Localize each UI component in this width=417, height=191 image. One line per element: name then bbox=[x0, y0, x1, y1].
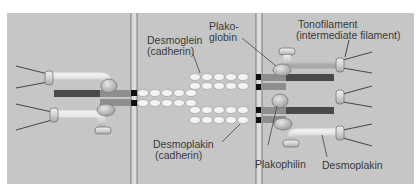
left-plakoglobin bbox=[101, 79, 117, 93]
label-desmoglein-sub: (cadherin) bbox=[147, 45, 194, 57]
right-plakoglobin-mid bbox=[272, 94, 288, 108]
label-desmoplakin-cadherin-sub: (cadherin) bbox=[155, 149, 202, 161]
desmosome-diagram: Desmoglein (cadherin) Plako- globin Tono… bbox=[0, 0, 417, 191]
left-cell-membrane bbox=[131, 13, 137, 184]
label-desmoplakin: Desmoplakin bbox=[322, 159, 383, 171]
label-plakophilin: Plakophilin bbox=[255, 158, 306, 170]
label-plakoglobin-sub: globin bbox=[209, 31, 237, 43]
left-plakophilin bbox=[97, 104, 115, 116]
label-tonofilament-sub: (intermediate filament) bbox=[296, 29, 400, 41]
right-plakophilin bbox=[274, 118, 292, 130]
